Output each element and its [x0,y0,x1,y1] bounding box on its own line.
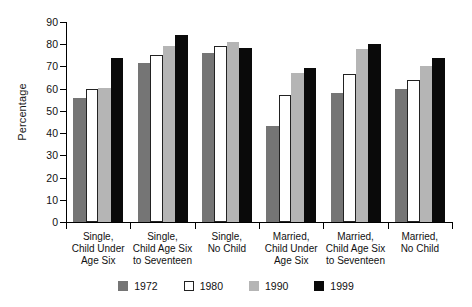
x-axis-group-label-line: Child Age Six [323,243,387,255]
y-axis-tick-label: 20 [16,173,58,183]
bar [395,89,408,222]
x-axis-group-label-line: Age Six [259,255,323,267]
x-axis-group-label-line: Age Six [66,255,130,267]
legend-item: 1980 [184,281,223,291]
y-axis-tick-label: 60 [16,84,58,94]
bar [138,63,151,222]
legend-label: 1972 [134,281,157,291]
bar [343,74,356,222]
legend-swatch-icon [184,281,194,291]
bar [150,55,163,222]
bar [73,98,86,222]
x-axis-group-label: Single,Child Age Sixto Seventeen [130,231,194,268]
bar [407,80,420,222]
x-axis-group-label-line: No Child [195,243,259,255]
bar [432,58,445,222]
bar [266,126,279,222]
x-axis-tick [388,223,389,229]
x-axis-tick [323,223,324,229]
x-axis-group-label-line: Married, [259,231,323,243]
y-axis-tick-label: 70 [16,61,58,71]
bar [98,88,111,222]
x-axis-group-label-line: to Seventeen [130,255,194,267]
bar [202,53,215,222]
bar [175,35,188,222]
chart-legend: 1972198019901999 [0,281,472,291]
x-axis-group-label-line: Child Under [259,243,323,255]
bar [111,58,124,222]
legend-label: 1999 [330,281,353,291]
legend-label: 1980 [200,281,223,291]
legend-swatch-icon [314,281,324,291]
bar [304,68,317,222]
x-axis-group-label-line: Single, [66,231,130,243]
x-axis-tick [66,223,67,229]
x-axis-group-label-line: Single, [195,231,259,243]
y-axis-tick-label: 90 [16,17,58,27]
y-axis-tick-label: 0 [16,217,58,227]
x-axis-group-label-line: Single, [130,231,194,243]
legend-item: 1999 [314,281,353,291]
x-axis-group-label-line: Child Under [66,243,130,255]
bar [331,93,344,222]
bar-chart: Percentage 9080706050403020100 Single,Ch… [0,0,472,307]
legend-item: 1972 [118,281,157,291]
bar [368,44,381,222]
bar [86,89,99,222]
y-axis-tick-label: 40 [16,128,58,138]
plot-area [66,22,452,222]
bar [420,66,433,222]
legend-label: 1990 [265,281,288,291]
x-axis-group-label: Married,Child Age Sixto Seventeen [323,231,387,268]
x-axis-group-label: Single,Child UnderAge Six [66,231,130,268]
bar [227,42,240,222]
bar [279,95,292,222]
x-axis-group-label-line: Child Age Six [130,243,194,255]
y-axis-tick-label: 80 [16,39,58,49]
x-axis-tick [452,223,453,229]
y-axis-tick-label: 10 [16,195,58,205]
bar [214,46,227,222]
bar [239,48,252,222]
bar [356,49,369,222]
legend-item: 1990 [249,281,288,291]
x-axis-tick [195,223,196,229]
x-axis-tick [130,223,131,229]
bar [163,46,176,222]
bar [291,73,304,222]
y-axis-tick-label: 30 [16,150,58,160]
x-axis-group-label: Married,Child UnderAge Six [259,231,323,268]
x-axis-group-label: Single,No Child [195,231,259,255]
x-axis-group-label-line: to Seventeen [323,255,387,267]
x-axis-group-label-line: Married, [323,231,387,243]
x-axis-group-label-line: No Child [388,243,452,255]
legend-swatch-icon [118,281,128,291]
y-axis-tick-label: 50 [16,106,58,116]
x-axis-group-label: Married,No Child [388,231,452,255]
x-axis-group-label-line: Married, [388,231,452,243]
legend-swatch-icon [249,281,259,291]
x-axis-tick [259,223,260,229]
